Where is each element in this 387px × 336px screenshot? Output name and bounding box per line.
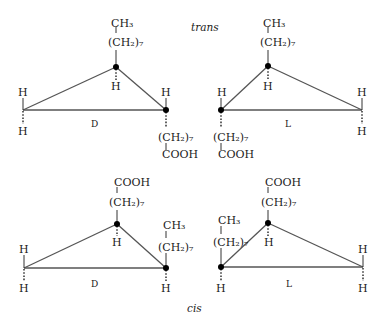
cyclopropane-stereo-diagram: (CH₂)₇ CH₃ H H H H (CH₂)₇ COOH D trans (… <box>0 0 387 336</box>
h-label: H <box>111 80 121 93</box>
cooh-label: COOH <box>114 176 150 189</box>
ring-bond <box>268 223 363 267</box>
ch2-7-label: (CH₂)₇ <box>108 36 144 49</box>
panel-cis-d: (CH₂)₇ COOH H H H CH₃ (CH₂)₇ H D <box>19 176 194 295</box>
config-label-l: L <box>285 119 291 129</box>
ch2-7-label: (CH₂)₇ <box>213 131 249 144</box>
h-label: H <box>263 80 273 93</box>
ring-bond <box>23 67 116 110</box>
ch3-label: CH₃ <box>218 214 240 227</box>
ch2-7-label: (CH₂)₇ <box>158 131 194 144</box>
ch2-7-label: (CH₂)₇ <box>261 196 297 209</box>
panel-trans-d: (CH₂)₇ CH₃ H H H H (CH₂)₇ COOH D <box>18 17 198 161</box>
h-label: H <box>112 236 122 249</box>
h-label: H <box>358 282 368 295</box>
h-label: H <box>18 86 28 99</box>
h-label: H <box>358 243 368 256</box>
config-label-l: L <box>286 279 292 289</box>
panel-trans-l: (CH₂)₇ CH₃ H H (CH₂)₇ COOH H H L <box>213 17 367 161</box>
h-label: H <box>19 282 29 295</box>
ring-bond <box>116 67 166 110</box>
cis-label: cis <box>187 302 202 314</box>
panel-cis-l: (CH₂)₇ COOH H CH₃ (CH₂)₇ H H H L <box>213 176 368 295</box>
stereocenter-dot <box>163 265 169 271</box>
h-label: H <box>216 282 226 295</box>
ch3-label: CH₃ <box>263 17 285 30</box>
h-label: H <box>217 86 227 99</box>
config-label-d: D <box>91 279 98 289</box>
h-label: H <box>161 282 171 295</box>
cooh-label: COOH <box>218 148 254 161</box>
ch2-7-label: (CH₂)₇ <box>109 196 145 209</box>
config-label-d: D <box>91 119 98 129</box>
trans-label: trans <box>191 21 219 33</box>
h-label: H <box>357 125 367 138</box>
h-label: H <box>161 86 171 99</box>
ring-bond <box>268 66 362 110</box>
ch3-label: CH₃ <box>163 219 185 232</box>
ch2-7-label: (CH₂)₇ <box>260 36 296 49</box>
ch2-7-label: (CH₂)₇ <box>158 241 194 254</box>
h-label: H <box>18 125 28 138</box>
stereocenter-dot <box>163 107 169 113</box>
cooh-label: COOH <box>265 176 301 189</box>
cooh-label: COOH <box>162 148 198 161</box>
h-label: H <box>264 236 274 249</box>
ch3-label: CH₃ <box>111 17 133 30</box>
ring-bond <box>24 224 117 268</box>
ring-bond <box>221 66 268 110</box>
stereocenter-dot <box>113 64 119 70</box>
h-label: H <box>19 243 29 256</box>
stereocenter-dot <box>265 220 271 226</box>
stereocenter-dot <box>265 63 271 69</box>
stereocenter-dot <box>218 107 224 113</box>
h-label: H <box>357 86 367 99</box>
ch2-7-label: (CH₂)₇ <box>213 236 249 249</box>
stereocenter-dot <box>114 221 120 227</box>
stereocenter-dot <box>218 264 224 270</box>
